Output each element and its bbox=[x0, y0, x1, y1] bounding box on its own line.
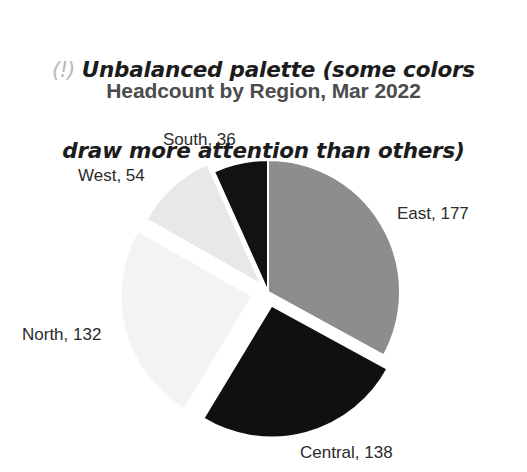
data-label-north: North, 132 bbox=[22, 325, 101, 345]
pie-chart-svg bbox=[0, 0, 527, 472]
data-label-south: South, 36 bbox=[163, 130, 236, 150]
pie-slice-group bbox=[121, 160, 400, 438]
data-label-central: Central, 138 bbox=[300, 443, 393, 463]
pie-chart bbox=[0, 0, 527, 472]
data-label-east: East, 177 bbox=[397, 204, 469, 224]
chart-canvas: (!) Unbalanced palette (some colors draw… bbox=[0, 0, 527, 472]
data-label-west: West, 54 bbox=[78, 166, 145, 186]
